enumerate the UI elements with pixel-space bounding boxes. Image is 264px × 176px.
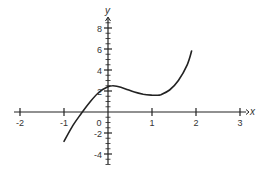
x-tick-label: -1 [60, 118, 68, 128]
x-axis-arrow-icon [246, 110, 249, 115]
y-axis-label: y [104, 5, 111, 16]
tick-labels: -2-10123-4-22468 [16, 24, 243, 160]
x-tick-label: 3 [237, 118, 242, 128]
y-tick-label: -2 [94, 129, 102, 139]
ticks [20, 23, 240, 165]
y-tick-label: 6 [97, 45, 102, 55]
y-tick-label: 8 [97, 24, 102, 34]
x-tick-label: 1 [149, 118, 154, 128]
x-tick-label: 2 [193, 118, 198, 128]
x-axis-label: x [249, 106, 256, 117]
function-curve [64, 51, 192, 141]
x-tick-label: 0 [96, 118, 101, 128]
function-graph: -2-10123-4-22468 x y [0, 0, 264, 176]
x-tick-label: -2 [16, 118, 24, 128]
y-tick-label: 4 [97, 66, 102, 76]
y-tick-label: -4 [94, 150, 102, 160]
